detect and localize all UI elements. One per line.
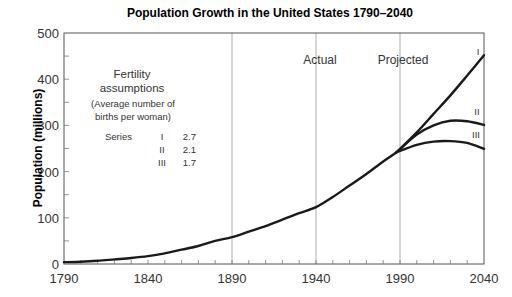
y-tick-label: 400: [37, 72, 59, 87]
x-tick-label: 1990: [386, 271, 415, 286]
x-tick-label: 1840: [134, 271, 163, 286]
y-tick-label: 0: [52, 257, 59, 272]
annotation-actual: Actual: [303, 53, 336, 67]
y-tick-label: 100: [37, 211, 59, 226]
legend-series-label: Series: [105, 131, 132, 142]
legend-row-1-series: I: [161, 131, 164, 142]
legend-row-3-series: III: [158, 157, 166, 168]
y-axis-label: Population (millions): [31, 89, 45, 208]
x-tick-label: 1790: [50, 271, 79, 286]
legend-title-2: assumptions: [100, 82, 165, 94]
legend-title-1: Fertility: [113, 68, 150, 80]
legend-row-1-value: 2.7: [183, 131, 196, 142]
series-line-i: [397, 55, 484, 152]
x-tick-label: 2040: [470, 271, 499, 286]
legend-subtitle-2: births per woman): [95, 111, 171, 122]
y-tick-label: 500: [37, 26, 59, 41]
series-line-iii: [397, 141, 484, 152]
series-line-actual: [64, 152, 397, 262]
series-label-II: II: [474, 106, 479, 117]
series-label-I: I: [477, 46, 480, 57]
legend: Fertility assumptions (Average number of…: [91, 68, 196, 168]
chart-title: Population Growth in the United States 1…: [127, 6, 413, 20]
legend-row-2-value: 2.1: [183, 144, 196, 155]
series-label-III: III: [472, 129, 480, 140]
x-tick-labels: 179018401890194019902040: [50, 271, 499, 286]
legend-row-2-series: II: [159, 144, 164, 155]
annotation-projected: Projected: [378, 53, 429, 67]
x-tick-label: 1940: [302, 271, 331, 286]
x-tick-label: 1890: [218, 271, 247, 286]
population-chart: Population Growth in the United States 1…: [0, 0, 512, 297]
legend-subtitle-1: (Average number of: [91, 98, 175, 109]
legend-row-3-value: 1.7: [183, 157, 196, 168]
